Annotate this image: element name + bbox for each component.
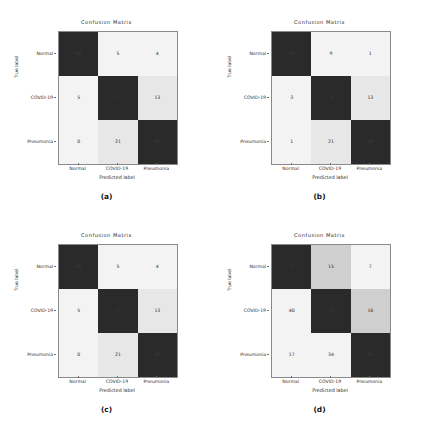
- cell-0-1: 5: [98, 245, 137, 289]
- panel-caption-c: (c): [0, 405, 213, 414]
- cell-0-1: 9: [311, 32, 350, 76]
- x-axis-label: Predicted label: [58, 388, 176, 393]
- confusion-matrix-figure-grid: Confusion Matrix True label Normal COVID…: [0, 0, 426, 427]
- cell-2-1: 21: [311, 120, 350, 164]
- cell-1-2: 13: [138, 289, 177, 333]
- cell-1-2: 16: [351, 289, 390, 333]
- chart-title: Confusion Matrix: [0, 232, 213, 238]
- y-tick-normal: Normal: [231, 244, 269, 288]
- chart-title: Confusion Matrix: [213, 232, 426, 238]
- y-tick-pneumonia: Pneumonia: [18, 119, 56, 163]
- cell-1-1: 77: [98, 76, 137, 120]
- cell-0-2: 4: [138, 245, 177, 289]
- cell-0-2: 7: [351, 245, 390, 289]
- y-tick-covid: COVID-19: [231, 288, 269, 332]
- panel-caption-b: (b): [213, 192, 426, 201]
- confusion-matrix-b: 85 9 1 3 79 13 1 21 68: [271, 31, 391, 165]
- cell-2-2: 39: [351, 333, 390, 377]
- cell-1-2: 13: [138, 76, 177, 120]
- confusion-matrix-d: 73 15 7 40 39 16 17 34 39: [271, 244, 391, 378]
- cell-0-2: 4: [138, 32, 177, 76]
- cell-1-0: 5: [59, 289, 98, 333]
- cell-1-1: 77: [98, 289, 137, 333]
- y-axis-ticks: Normal COVID-19 Pneumonia: [18, 244, 56, 376]
- cell-2-2: 69: [138, 333, 177, 377]
- panel-a: Confusion Matrix True label Normal COVID…: [0, 0, 213, 213]
- cell-2-1: 34: [311, 333, 350, 377]
- confusion-matrix-c: 86 5 4 5 77 13 0 21 69: [58, 244, 178, 378]
- cell-2-2: 68: [351, 120, 390, 164]
- cell-1-1: 39: [311, 289, 350, 333]
- y-tick-pneumonia: Pneumonia: [231, 332, 269, 376]
- y-tick-covid: COVID-19: [18, 288, 56, 332]
- panel-c-plot: Confusion Matrix True label Normal COVID…: [0, 213, 213, 403]
- cell-1-1: 79: [311, 76, 350, 120]
- y-axis-ticks: Normal COVID-19 Pneumonia: [231, 244, 269, 376]
- cell-0-1: 5: [98, 32, 137, 76]
- cell-1-0: 40: [272, 289, 311, 333]
- cell-1-2: 13: [351, 76, 390, 120]
- panel-a-plot: Confusion Matrix True label Normal COVID…: [0, 0, 213, 190]
- panel-d-plot: Confusion Matrix True label Normal COVID…: [213, 213, 426, 403]
- cell-2-2: 69: [138, 120, 177, 164]
- y-axis-ticks: Normal COVID-19 Pneumonia: [231, 31, 269, 163]
- y-tick-covid: COVID-19: [18, 75, 56, 119]
- cell-1-0: 3: [272, 76, 311, 120]
- panel-caption-a: (a): [0, 192, 213, 201]
- cell-2-1: 21: [98, 120, 137, 164]
- cell-1-0: 5: [59, 76, 98, 120]
- confusion-matrix-a: 86 5 4 5 77 13 0 21 69: [58, 31, 178, 165]
- cell-0-2: 1: [351, 32, 390, 76]
- x-axis-label: Predicted label: [58, 175, 176, 180]
- y-axis-ticks: Normal COVID-19 Pneumonia: [18, 31, 56, 163]
- y-tick-covid: COVID-19: [231, 75, 269, 119]
- cell-0-1: 15: [311, 245, 350, 289]
- y-tick-pneumonia: Pneumonia: [231, 119, 269, 163]
- cell-2-0: 0: [59, 120, 98, 164]
- y-tick-normal: Normal: [18, 244, 56, 288]
- chart-title: Confusion Matrix: [213, 19, 426, 25]
- panel-d: Confusion Matrix True label Normal COVID…: [213, 213, 426, 426]
- cell-0-0: 86: [59, 245, 98, 289]
- panel-c: Confusion Matrix True label Normal COVID…: [0, 213, 213, 426]
- cell-0-0: 73: [272, 245, 311, 289]
- cell-2-0: 1: [272, 120, 311, 164]
- cell-2-0: 0: [59, 333, 98, 377]
- panel-caption-d: (d): [213, 405, 426, 414]
- cell-0-0: 86: [59, 32, 98, 76]
- x-axis-label: Predicted label: [271, 175, 389, 180]
- panel-b: Confusion Matrix True label Normal COVID…: [213, 0, 426, 213]
- y-tick-normal: Normal: [18, 31, 56, 75]
- cell-2-1: 21: [98, 333, 137, 377]
- cell-0-0: 85: [272, 32, 311, 76]
- chart-title: Confusion Matrix: [0, 19, 213, 25]
- cell-2-0: 17: [272, 333, 311, 377]
- panel-b-plot: Confusion Matrix True label Normal COVID…: [213, 0, 426, 190]
- y-tick-normal: Normal: [231, 31, 269, 75]
- x-axis-label: Predicted label: [271, 388, 389, 393]
- y-tick-pneumonia: Pneumonia: [18, 332, 56, 376]
